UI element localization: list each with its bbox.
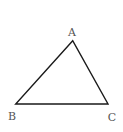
- triangle-diagram: A B C: [0, 0, 123, 132]
- vertex-label-a: A: [67, 26, 77, 39]
- vertex-label-b: B: [8, 110, 16, 123]
- triangle-abc: [16, 41, 108, 104]
- vertex-label-c: C: [108, 111, 116, 124]
